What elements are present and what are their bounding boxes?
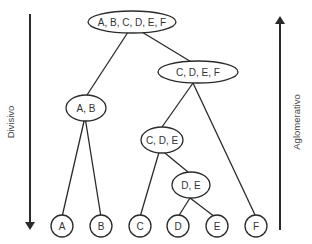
node-cdef: C, D, E, F bbox=[158, 61, 238, 83]
edge-de-e bbox=[190, 198, 215, 217]
node-abcdef: A, B, C, D, E, F bbox=[88, 11, 176, 33]
node-label: F bbox=[253, 221, 259, 232]
node-f: F bbox=[245, 215, 267, 237]
edge-de-d bbox=[178, 198, 190, 217]
node-label: C, D, E, F bbox=[176, 67, 220, 78]
edges bbox=[62, 26, 256, 217]
node-label: A bbox=[59, 221, 66, 232]
node-cde: C, D, E bbox=[141, 127, 183, 153]
node-de: D, E bbox=[172, 172, 210, 198]
node-label: A, B bbox=[77, 103, 96, 114]
node-label: C, D, E bbox=[146, 135, 179, 146]
edge-cdef-f bbox=[193, 83, 256, 217]
node-c: C bbox=[129, 215, 151, 237]
edge-ab-a bbox=[62, 117, 85, 217]
node-d: D bbox=[167, 215, 189, 237]
edge-ab-b bbox=[85, 117, 101, 217]
node-label: C bbox=[136, 221, 143, 232]
edge-cdef-cde bbox=[162, 83, 193, 127]
node-b: B bbox=[90, 215, 112, 237]
agglomerative-axis-label: Aglomerativo bbox=[291, 94, 302, 149]
node-a: A bbox=[51, 215, 73, 237]
clustering-diagram: Divisivo Aglomerativo A, B, C, D, E, F C… bbox=[0, 0, 312, 244]
node-label: D bbox=[174, 221, 181, 232]
node-e: E bbox=[206, 215, 228, 237]
node-label: D, E bbox=[181, 180, 201, 191]
edge-cde-c bbox=[140, 149, 160, 217]
node-label: B bbox=[98, 221, 105, 232]
divisive-axis-label: Divisivo bbox=[5, 106, 16, 139]
diagram-canvas: Divisivo Aglomerativo A, B, C, D, E, F C… bbox=[0, 0, 312, 244]
node-ab: A, B bbox=[66, 95, 106, 121]
node-label: E bbox=[214, 221, 221, 232]
edge-abcdef-ab bbox=[87, 26, 132, 95]
node-label: A, B, C, D, E, F bbox=[98, 17, 166, 28]
